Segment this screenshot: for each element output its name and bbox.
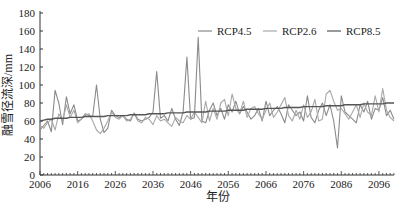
x-tick-label: 2036 [142,178,165,190]
y-tick-label: 140 [19,43,36,55]
y-axis-label: 融雪径流深/mm [1,53,15,136]
legend-label: RCP8.5 [346,25,381,37]
legend: RCP4.5RCP2.6RCP8.5 [198,25,381,37]
x-tick-label: 2076 [293,178,316,190]
y-tick-label: 80 [24,97,36,109]
legend-label: RCP4.5 [217,25,252,37]
y-tick-label: 180 [19,7,36,19]
x-tick-label: 2006 [29,178,52,190]
x-tick-label: 2046 [180,178,203,190]
x-tick-label: 2066 [255,178,278,190]
y-tick-label: 20 [24,151,36,163]
y-tick-label: 40 [24,133,36,145]
x-tick-label: 2026 [104,178,127,190]
x-tick-label: 2056 [217,178,240,190]
x-tick-label: 2016 [67,178,90,190]
series-line-rcp45 [40,37,394,148]
x-tick-label: 2096 [368,178,391,190]
x-axis-label: 年份 [206,190,230,204]
series-lines [40,37,394,148]
snowmelt-runoff-chart: 0204060801001201401601802006201620262036… [0,0,395,208]
y-tick-label: 100 [19,79,36,91]
axes: 0204060801001201401601802006201620262036… [19,7,395,190]
chart-svg: 0204060801001201401601802006201620262036… [0,0,395,208]
x-tick-label: 2086 [330,178,353,190]
legend-label: RCP2.6 [282,25,317,37]
y-tick-label: 120 [19,61,36,73]
y-tick-label: 160 [19,25,36,37]
y-tick-label: 60 [24,115,36,127]
